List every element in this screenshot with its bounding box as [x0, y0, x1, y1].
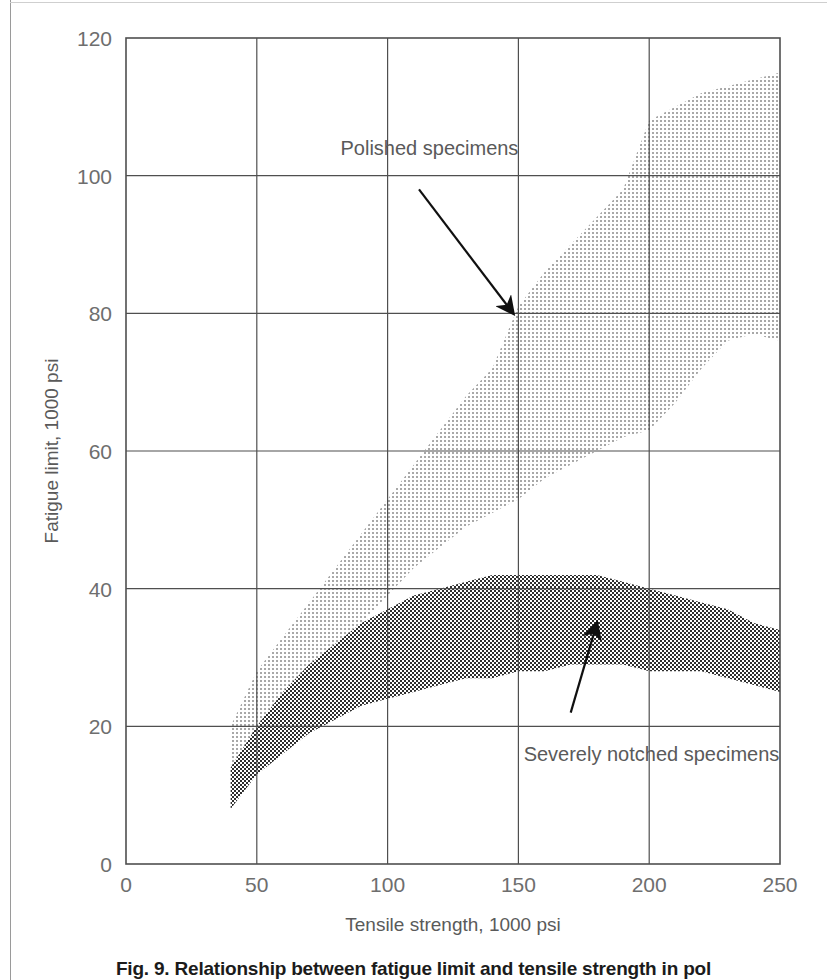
figure-page: 050100150200250 020406080100120 Tensile …	[0, 0, 827, 980]
x-tick-150: 150	[501, 873, 536, 896]
x-axis-title: Tensile strength, 1000 psi	[345, 914, 560, 935]
y-tick-80: 80	[89, 302, 112, 325]
fatigue-limit-chart: 050100150200250 020406080100120 Tensile …	[0, 0, 827, 980]
y-axis-title: Fatigue limit, 1000 psi	[41, 359, 62, 544]
x-tick-250: 250	[762, 873, 797, 896]
figure-caption: Fig. 9. Relationship between fatigue lim…	[0, 958, 827, 980]
x-tick-200: 200	[632, 873, 667, 896]
y-tick-60: 60	[89, 440, 112, 463]
y-tick-20: 20	[89, 715, 112, 738]
x-tick-0: 0	[120, 873, 132, 896]
x-axis-tick-labels: 050100150200250	[120, 873, 797, 896]
annotation-label-1: Polished specimens	[341, 137, 519, 159]
y-tick-0: 0	[100, 853, 112, 876]
y-tick-120: 120	[77, 27, 112, 50]
x-tick-50: 50	[245, 873, 268, 896]
y-tick-100: 100	[77, 165, 112, 188]
annotation-label-2: Severely notched specimens	[524, 743, 780, 765]
chart-figure: 050100150200250 020406080100120 Tensile …	[0, 0, 827, 980]
y-axis-tick-labels: 020406080100120	[77, 27, 112, 876]
y-tick-40: 40	[89, 578, 112, 601]
x-tick-100: 100	[370, 873, 405, 896]
